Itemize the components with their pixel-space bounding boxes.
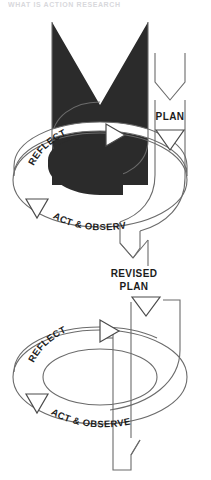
cycle-2-inner-ellipse bbox=[43, 349, 157, 405]
cycle-2-reflect-arrow-icon bbox=[100, 320, 119, 342]
cycle-1-plan-ribbon bbox=[155, 53, 185, 100]
cycle-2-act-observe-label: ACT & OBSERVE bbox=[50, 406, 132, 430]
cycle-2-group: REFLECT ACT & OBSERVE bbox=[13, 300, 187, 470]
revised-plan-arrow-icon bbox=[132, 297, 160, 316]
connector-notch bbox=[120, 240, 148, 258]
cycle-1-group: REFLECT ACT & OBSERVE PLAN bbox=[0, 0, 187, 232]
cycle-2-bottom-tail-edge bbox=[131, 440, 140, 455]
spiral-diagram-canvas: REFLECT ACT & OBSERVE PLAN bbox=[0, 0, 211, 480]
revised-plan-group: REVISED PLAN bbox=[111, 268, 160, 316]
cycle-1-core-fill bbox=[48, 136, 123, 195]
cycle-2-bottom-tail bbox=[113, 436, 140, 470]
cycle-2-entry-ribbon-right bbox=[110, 300, 180, 410]
revised-plan-label-line1: REVISED bbox=[111, 268, 158, 279]
figure-caption-partial: WHAT IS ACTION RESEARCH bbox=[8, 0, 198, 9]
action-research-diagram: WHAT IS ACTION RESEARCH REFLECT bbox=[0, 0, 211, 480]
cycle-1-plan-label: PLAN bbox=[156, 111, 185, 122]
revised-plan-label-line2: PLAN bbox=[120, 281, 149, 292]
cycle-1-act-arrow-icon bbox=[26, 199, 48, 218]
cycle-2-act-arrow-icon bbox=[26, 394, 48, 413]
